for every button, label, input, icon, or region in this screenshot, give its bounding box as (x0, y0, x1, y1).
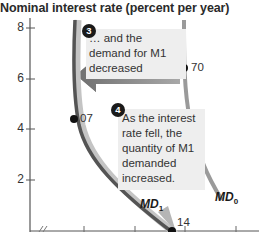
y-tick-label: 2 (10, 172, 24, 186)
y-tick-label: 6 (10, 71, 24, 85)
point-label-07: 07 (80, 112, 93, 124)
point-label-14: 14 (177, 216, 190, 228)
md0-label-subscript: 0 (234, 197, 238, 206)
callout-quantity-increased: As the interest rate fell, the quantity … (118, 109, 205, 190)
callout-demand-decreased: … and the demand for M1 decreased (86, 29, 186, 79)
y-tick-label: 4 (10, 121, 24, 135)
md1-label-name: MD (140, 197, 159, 211)
step-4-badge: 4 (111, 103, 125, 117)
callout-text: … and the demand for M1 decreased (89, 32, 166, 74)
step-3-badge: 3 (82, 24, 96, 38)
md1-label-subscript: 1 (159, 204, 163, 213)
point-07 (70, 115, 78, 123)
md0-label: MD0 (215, 190, 238, 206)
point-label-70: 70 (191, 61, 204, 73)
y-tick-label: 8 (10, 20, 24, 34)
md0-label-name: MD (215, 190, 234, 204)
callout-text: As the interest rate fell, the quantity … (122, 112, 196, 184)
md1-label: MD1 (140, 197, 163, 213)
